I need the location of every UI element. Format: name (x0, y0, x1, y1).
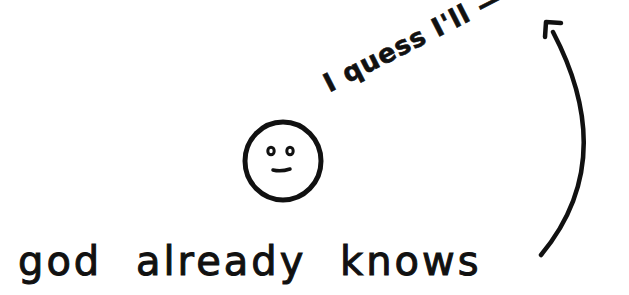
smiley-face-icon (240, 118, 326, 204)
caption-text: god already knows (18, 238, 482, 284)
comic-canvas: I quess I'll — god already knows (0, 0, 629, 295)
speech-text: I quess I'll — (318, 0, 508, 98)
